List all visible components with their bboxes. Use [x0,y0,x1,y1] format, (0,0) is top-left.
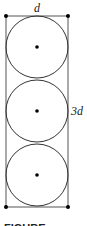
corner-top-right [66,14,70,18]
center-dot-middle [35,109,39,113]
corner-bottom-left [4,205,8,209]
center-dot-bottom [35,173,39,177]
width-label: d [34,1,41,15]
diagram-canvas: d 3d FIGURE [0,0,87,226]
corner-bottom-right [66,205,70,209]
corner-top-left [4,14,8,18]
center-dot-top [35,45,39,49]
height-label: 3d [70,104,84,118]
figure-caption: FIGURE [4,222,46,226]
